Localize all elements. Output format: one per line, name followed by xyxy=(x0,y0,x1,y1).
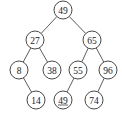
node-label: 38 xyxy=(47,66,57,76)
tree-node: 14 xyxy=(27,91,45,109)
tree-edge xyxy=(67,78,74,92)
tree-node: 49 xyxy=(54,1,72,19)
tree-edge xyxy=(82,48,88,62)
tree-node: 55 xyxy=(69,61,87,79)
node-label: 27 xyxy=(30,36,40,46)
node-label: 96 xyxy=(103,66,113,76)
tree-node: 74 xyxy=(85,91,103,109)
node-layer: 4927658385596144974 xyxy=(10,1,117,109)
tree-node: 49 xyxy=(54,91,72,109)
tree-node: 27 xyxy=(26,31,44,49)
tree-edge xyxy=(98,78,104,92)
tree-edge xyxy=(96,48,104,62)
node-label: 55 xyxy=(73,66,83,76)
node-label: 49 xyxy=(58,96,68,106)
tree-edge xyxy=(69,16,85,33)
node-label: 74 xyxy=(89,96,99,106)
tree-diagram: 4927658385596144974 xyxy=(0,0,122,115)
tree-edge xyxy=(23,78,31,92)
node-label: 65 xyxy=(87,36,97,46)
tree-edge xyxy=(39,48,47,62)
tree-node: 38 xyxy=(43,61,61,79)
tree-svg: 4927658385596144974 xyxy=(0,0,122,115)
node-label: 49 xyxy=(58,6,68,16)
node-label: 14 xyxy=(31,96,41,106)
tree-edge xyxy=(41,17,57,34)
tree-node: 65 xyxy=(83,31,101,49)
tree-node: 96 xyxy=(99,61,117,79)
tree-edge xyxy=(23,48,31,62)
tree-node: 8 xyxy=(10,61,28,79)
node-label: 8 xyxy=(17,66,22,76)
edge-layer xyxy=(23,16,104,92)
